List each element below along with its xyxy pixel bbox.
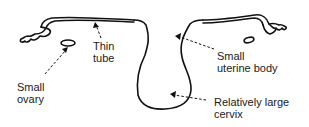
label-large-cervix: Relatively large cervix <box>214 96 289 120</box>
arrowhead-thin-tube <box>93 22 99 28</box>
label-small-ovary: Small ovary <box>17 81 45 105</box>
leader-small-ovary <box>45 50 66 74</box>
arrowhead-small-ovary <box>62 47 68 53</box>
arrowhead-cervix <box>170 91 176 98</box>
label-thin-tube: Thin tube <box>93 40 114 64</box>
left-ovary <box>61 40 75 46</box>
right-ovary <box>244 36 255 43</box>
left-fimbriae <box>20 27 50 42</box>
label-small-uterine-body: Small uterine body <box>217 50 278 74</box>
uterus <box>134 20 203 109</box>
arrowhead-uterine-body <box>175 33 181 40</box>
right-fimbriae <box>263 24 286 34</box>
leader-uterine-body <box>180 37 214 49</box>
left-tube-inner <box>46 20 134 28</box>
